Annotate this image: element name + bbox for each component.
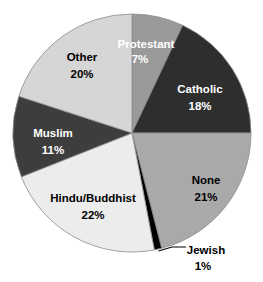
slice-label-catholic: Catholic [177, 83, 223, 95]
pie-chart: Protestant7%Catholic18%None21%Jewish1%Hi… [0, 0, 263, 282]
slice-label-other: Other [67, 51, 98, 63]
slice-value-protestant: 7% [132, 53, 149, 65]
slice-value-none: 21% [194, 191, 217, 203]
slice-label-jewish: Jewish [187, 244, 225, 256]
slice-value-hindu-buddhist: 22% [81, 209, 104, 221]
slice-label-none: None [192, 174, 221, 186]
slice-value-jewish: 1% [195, 260, 212, 272]
slice-label-hindu-buddhist: Hindu/Buddhist [50, 192, 136, 204]
slice-label-protestant: Protestant [118, 38, 175, 50]
pie-chart-canvas: Protestant7%Catholic18%None21%Jewish1%Hi… [0, 0, 263, 282]
slice-value-muslim: 11% [42, 144, 64, 156]
slice-value-other: 20% [70, 68, 93, 80]
slice-label-muslim: Muslim [33, 127, 73, 139]
slice-value-catholic: 18% [188, 100, 211, 112]
